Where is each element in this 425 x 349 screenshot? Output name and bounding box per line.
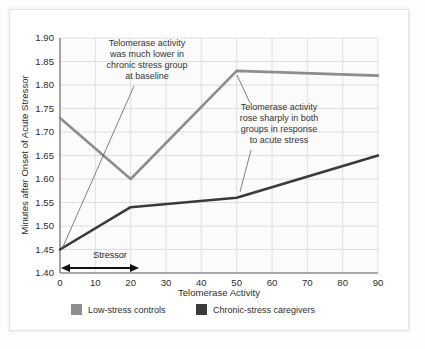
y-tick-label: 1.90 bbox=[35, 32, 54, 43]
x-tick-label: 90 bbox=[373, 277, 384, 288]
annotation-baseline-line-3: chronic stress group bbox=[106, 60, 187, 70]
annotation-baseline-line-2: was much lower in bbox=[109, 49, 184, 59]
x-axis-title: Telomerase Activity bbox=[178, 287, 260, 298]
annotation-baseline-line-1: Telomerase activity bbox=[109, 38, 186, 48]
y-tick-label: 1.40 bbox=[35, 267, 54, 278]
y-tick-label: 1.75 bbox=[35, 103, 54, 114]
x-tick-label: 60 bbox=[267, 277, 278, 288]
x-tick-label: 20 bbox=[125, 277, 136, 288]
legend-label-chronic-stress-caregivers: Chronic-stress caregivers bbox=[213, 305, 316, 315]
x-tick-label: 30 bbox=[161, 277, 172, 288]
x-tick-label: 70 bbox=[302, 277, 313, 288]
annotation-acute-line-4: to acute stress bbox=[250, 135, 309, 145]
y-tick-label: 1.65 bbox=[35, 150, 54, 161]
y-tick-label: 1.50 bbox=[35, 220, 54, 231]
y-axis-tick-labels: 1.401.451.501.551.601.651.701.751.801.85… bbox=[35, 32, 54, 278]
legend-label-low-stress-controls: Low-stress controls bbox=[88, 305, 166, 315]
y-tick-label: 1.80 bbox=[35, 79, 54, 90]
stressor-label: Stressor bbox=[93, 250, 127, 260]
x-tick-label: 80 bbox=[337, 277, 348, 288]
legend-swatch-low-stress-controls bbox=[71, 304, 82, 315]
line-chart: 1.401.451.501.551.601.651.701.751.801.85… bbox=[0, 0, 425, 349]
annotation-baseline-line-4: at baseline bbox=[125, 71, 169, 81]
x-tick-label: 0 bbox=[57, 277, 62, 288]
y-tick-label: 1.55 bbox=[35, 197, 54, 208]
y-tick-label: 1.45 bbox=[35, 244, 54, 255]
y-tick-label: 1.60 bbox=[35, 173, 54, 184]
annotation-acute-line-3: groups in response bbox=[241, 124, 318, 134]
annotation-acute-line-2: rose sharply in both bbox=[240, 113, 319, 123]
chart-legend: Low-stress controls Chronic-stress careg… bbox=[71, 304, 316, 315]
x-tick-label: 10 bbox=[90, 277, 101, 288]
chart-figure: 1.401.451.501.551.601.651.701.751.801.85… bbox=[0, 0, 425, 349]
legend-swatch-chronic-stress-caregivers bbox=[196, 304, 207, 315]
y-tick-label: 1.70 bbox=[35, 126, 54, 137]
annotation-acute-line-1: Telomerase activity bbox=[241, 102, 318, 112]
y-axis-title: Minutes after Onset of Acute Stressor bbox=[19, 74, 30, 234]
y-tick-label: 1.85 bbox=[35, 56, 54, 67]
